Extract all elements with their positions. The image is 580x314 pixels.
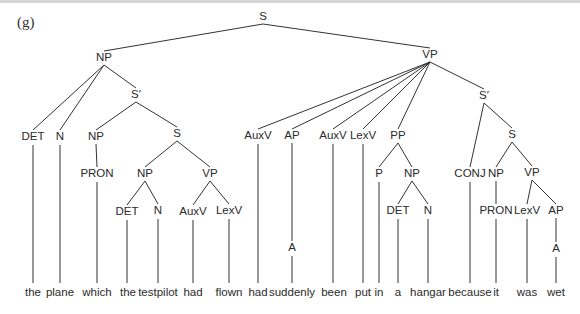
tree-edge <box>292 62 430 129</box>
node-vp: VP <box>202 167 218 179</box>
tree-edge <box>258 62 430 129</box>
node-ap: AP <box>548 204 564 216</box>
tree-edge <box>60 65 104 130</box>
node-lexv: LexV <box>514 204 541 216</box>
node-pron: PRON <box>80 167 113 179</box>
node-n: N <box>424 204 432 216</box>
node-n: N <box>154 204 162 216</box>
node-vp: VP <box>422 48 438 60</box>
terminal-word: put <box>355 286 372 298</box>
tree-edge <box>398 181 412 204</box>
tree-edge <box>363 62 430 129</box>
node-det: DET <box>22 130 45 142</box>
terminal-word: because <box>448 286 491 298</box>
terminal-word: a <box>395 286 402 298</box>
node-np: NP <box>88 130 104 142</box>
node-ap: AP <box>284 129 300 141</box>
tree-edge <box>412 181 428 204</box>
node-np: NP <box>96 51 112 63</box>
tree-edge <box>496 142 512 167</box>
tree-edge <box>512 142 532 166</box>
tree-edge <box>136 102 177 127</box>
node-n: N <box>56 130 64 142</box>
tree-edge <box>104 65 136 88</box>
tree-edge <box>96 144 97 167</box>
terminal-word: it <box>493 286 500 298</box>
node-np: NP <box>137 167 153 179</box>
tree-edge <box>96 102 136 130</box>
terminal-word: testpilot <box>138 286 178 298</box>
node-s-bar: S′ <box>131 88 141 100</box>
tree-edge <box>145 181 158 204</box>
terminal-word: the <box>120 286 136 298</box>
tree-edge <box>33 65 104 130</box>
terminal-word: plane <box>46 286 74 298</box>
node-pron: PRON <box>479 204 512 216</box>
node-a: A <box>552 242 560 254</box>
node-s: S <box>508 128 516 140</box>
node-auxv: AuxV <box>244 129 272 141</box>
terminal-words: theplanewhichthetestpilothadflownhadsudd… <box>25 286 566 298</box>
terminal-word: been <box>321 286 347 298</box>
terminal-word: in <box>375 286 384 298</box>
tree-nodes: SNPVPDETNS′NPPRONSNPVPDETNAuxVLexVAuxVAP… <box>22 10 564 254</box>
terminal-word: which <box>81 286 111 298</box>
terminal-word: the <box>25 286 41 298</box>
figure-label: (g) <box>17 14 35 31</box>
node-a: A <box>288 241 296 253</box>
tree-edge <box>379 143 398 167</box>
node-np: NP <box>488 167 504 179</box>
tree-edge <box>145 141 177 167</box>
terminal-word: had <box>183 286 202 298</box>
tree-edge <box>127 181 145 205</box>
terminal-word: wet <box>546 286 566 298</box>
node-s: S <box>259 10 267 22</box>
tree-edge <box>193 181 210 205</box>
node-conj: CONJ <box>454 167 485 179</box>
node-lexv: LexV <box>216 204 243 216</box>
node-s-bar: S′ <box>479 89 489 101</box>
node-auxv: AuxV <box>179 205 207 217</box>
tree-edge <box>177 141 210 167</box>
tree-edge <box>104 24 263 51</box>
node-s: S <box>173 127 181 139</box>
terminal-word: flown <box>216 286 243 298</box>
tree-edge <box>527 180 532 204</box>
node-vp: VP <box>524 166 540 178</box>
terminal-word: hangar <box>410 286 446 298</box>
tree-edge <box>398 143 412 167</box>
node-lexv: LexV <box>350 129 377 141</box>
tree-edge <box>333 62 430 129</box>
tree-edge <box>484 103 512 128</box>
node-det: DET <box>116 205 139 217</box>
node-np: NP <box>404 167 420 179</box>
syntax-tree-diagram: (g) SNPVPDETNS′NPPRONSNPVPDETNAuxVLexVAu… <box>0 0 580 314</box>
tree-edge <box>210 181 229 204</box>
node-det: DET <box>387 204 410 216</box>
terminal-word: suddenly <box>269 286 315 298</box>
terminal-word: had <box>248 286 267 298</box>
node-p: P <box>375 167 383 179</box>
tree-edge <box>532 180 556 204</box>
terminal-word: was <box>516 286 538 298</box>
tree-edge <box>470 103 484 167</box>
tree-edge <box>430 62 484 89</box>
tree-edge <box>263 24 430 48</box>
tree-edge <box>398 62 430 129</box>
node-pp: PP <box>390 129 406 141</box>
node-auxv: AuxV <box>319 129 347 141</box>
